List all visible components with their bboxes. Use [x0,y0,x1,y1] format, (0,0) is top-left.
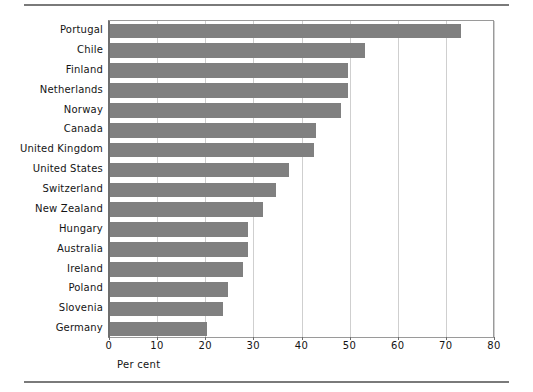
top-rule [24,4,509,6]
category-label-australia: Australia [0,239,103,259]
x-axis-title: Per cent [117,359,160,370]
x-tick-mark-0 [109,337,110,340]
x-tick-label-70: 70 [439,340,453,351]
x-tick-label-20: 20 [198,340,212,351]
x-tick-mark-20 [205,337,206,340]
category-label-ireland: Ireland [0,259,103,279]
x-tick-label-50: 50 [343,340,357,351]
bar-germany [110,322,207,337]
bar-united-kingdom [110,143,314,158]
category-label-poland: Poland [0,278,103,298]
bar-finland [110,63,348,78]
bar-netherlands [110,83,348,98]
category-label-new-zealand: New Zealand [0,199,103,219]
bar-poland [110,282,228,297]
category-label-slovenia: Slovenia [0,298,103,318]
category-label-finland: Finland [0,60,103,80]
category-label-portugal: Portugal [0,20,103,40]
bar-row [110,220,493,240]
x-tick-label-40: 40 [295,340,309,351]
x-tick-mark-80 [494,337,495,340]
category-label-hungary: Hungary [0,219,103,239]
x-tick-mark-70 [446,337,447,340]
x-tick-label-30: 30 [247,340,261,351]
chart-figure: PortugalChileFinlandNetherlandsNorwayCan… [0,0,533,392]
bar-row [110,279,493,299]
x-tick-label-10: 10 [150,340,164,351]
bar-row [110,299,493,319]
bar-slovenia [110,302,223,317]
category-label-chile: Chile [0,40,103,60]
x-axis-ticks: 01020304050607080 [108,340,494,356]
category-axis-labels: PortugalChileFinlandNetherlandsNorwayCan… [0,20,103,338]
bar-row [110,240,493,260]
bar-row [110,160,493,180]
category-label-switzerland: Switzerland [0,179,103,199]
bar-row [110,41,493,61]
bottom-rule [24,381,509,383]
x-tick-mark-30 [253,337,254,340]
bar-norway [110,103,341,118]
bar-portugal [110,24,461,39]
x-tick-mark-10 [157,337,158,340]
category-label-netherlands: Netherlands [0,80,103,100]
x-tick-mark-60 [398,337,399,340]
category-label-canada: Canada [0,119,103,139]
bar-row [110,101,493,121]
x-tick-label-60: 60 [391,340,405,351]
x-tick-mark-50 [350,337,351,340]
bar-hungary [110,222,248,237]
bar-row [110,200,493,220]
gridline-80 [494,21,495,337]
category-label-germany: Germany [0,318,103,338]
bar-row [110,81,493,101]
bar-new-zealand [110,202,263,217]
bar-row [110,120,493,140]
bar-row [110,180,493,200]
category-label-norway: Norway [0,100,103,120]
bar-ireland [110,262,243,277]
bar-united-states [110,163,289,178]
x-tick-mark-40 [302,337,303,340]
bar-row [110,260,493,280]
bar-australia [110,242,248,257]
category-label-united-kingdom: United Kingdom [0,139,103,159]
bar-row [110,61,493,81]
x-tick-label-0: 0 [106,340,113,351]
plot-area [108,20,494,338]
category-label-united-states: United States [0,159,103,179]
x-tick-label-80: 80 [487,340,501,351]
bar-row [110,21,493,41]
bar-switzerland [110,183,276,198]
bar-chile [110,43,365,58]
bar-series [110,21,493,337]
bar-canada [110,123,316,138]
bar-row [110,140,493,160]
